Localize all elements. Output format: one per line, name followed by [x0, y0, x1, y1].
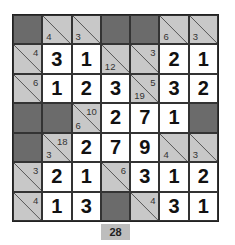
blocked-cell: [13, 15, 42, 44]
clue-cell: 4: [13, 44, 42, 73]
across-clue-sum: 4: [33, 195, 38, 206]
answer-cell[interactable]: 1: [42, 192, 71, 221]
clue-cell: 3: [130, 44, 159, 73]
puzzle-number-label: 28: [101, 224, 130, 240]
answer-cell[interactable]: 2: [72, 74, 101, 103]
blocked-cell: [101, 192, 130, 221]
clue-cell: 195: [130, 74, 159, 103]
down-clue-sum: 12: [105, 61, 116, 72]
answer-cell[interactable]: 2: [189, 162, 218, 191]
down-clue-sum: 3: [193, 31, 198, 42]
clue-cell: 610: [72, 103, 101, 132]
answer-cell[interactable]: 1: [189, 44, 218, 73]
down-clue-sum: 6: [163, 31, 168, 42]
across-clue-sum: 5: [150, 77, 155, 88]
clue-cell: 3: [72, 15, 101, 44]
answer-cell[interactable]: 2: [189, 74, 218, 103]
clue-cell: 4: [130, 192, 159, 221]
answer-cell[interactable]: 1: [189, 192, 218, 221]
answer-cell[interactable]: 1: [159, 162, 188, 191]
kakuro-grid: 4363431123216123195326102713182794332163…: [12, 14, 219, 222]
answer-cell[interactable]: 2: [72, 133, 101, 162]
answer-cell[interactable]: 1: [159, 103, 188, 132]
clue-cell: 318: [42, 133, 71, 162]
across-clue-sum: 10: [86, 106, 97, 117]
answer-cell[interactable]: 7: [101, 133, 130, 162]
answer-cell[interactable]: 7: [130, 103, 159, 132]
down-clue-sum: 3: [46, 149, 51, 160]
clue-cell: 3: [189, 133, 218, 162]
across-clue-sum: 18: [57, 136, 68, 147]
clue-cell: 3: [189, 15, 218, 44]
blocked-cell: [13, 133, 42, 162]
blocked-cell: [189, 103, 218, 132]
across-clue-sum: 4: [33, 47, 38, 58]
down-clue-sum: 6: [76, 120, 81, 131]
answer-cell[interactable]: 3: [159, 74, 188, 103]
blocked-cell: [101, 15, 130, 44]
blocked-cell: [130, 15, 159, 44]
blocked-cell: [42, 103, 71, 132]
clue-cell: 4: [159, 133, 188, 162]
across-clue-sum: 3: [150, 47, 155, 58]
clue-cell: 6: [101, 162, 130, 191]
answer-cell[interactable]: 2: [159, 44, 188, 73]
clue-cell: 4: [13, 192, 42, 221]
answer-cell[interactable]: 3: [72, 192, 101, 221]
answer-cell[interactable]: 2: [42, 162, 71, 191]
across-clue-sum: 3: [33, 165, 38, 176]
down-clue-sum: 19: [134, 90, 145, 101]
answer-cell[interactable]: 3: [130, 162, 159, 191]
clue-cell: 3: [13, 162, 42, 191]
blocked-cell: [13, 103, 42, 132]
clue-cell: 6: [13, 74, 42, 103]
clue-cell: 12: [101, 44, 130, 73]
down-clue-sum: 3: [76, 31, 81, 42]
answer-cell[interactable]: 3: [42, 44, 71, 73]
answer-cell[interactable]: 1: [72, 44, 101, 73]
down-clue-sum: 4: [46, 31, 51, 42]
answer-cell[interactable]: 2: [101, 103, 130, 132]
answer-cell[interactable]: 1: [72, 162, 101, 191]
across-clue-sum: 6: [121, 165, 126, 176]
answer-cell[interactable]: 9: [130, 133, 159, 162]
down-clue-sum: 4: [163, 149, 168, 160]
down-clue-sum: 3: [193, 149, 198, 160]
answer-cell[interactable]: 3: [101, 74, 130, 103]
across-clue-sum: 4: [150, 195, 155, 206]
clue-cell: 6: [159, 15, 188, 44]
answer-cell[interactable]: 1: [42, 74, 71, 103]
across-clue-sum: 6: [33, 77, 38, 88]
answer-cell[interactable]: 3: [159, 192, 188, 221]
clue-cell: 4: [42, 15, 71, 44]
